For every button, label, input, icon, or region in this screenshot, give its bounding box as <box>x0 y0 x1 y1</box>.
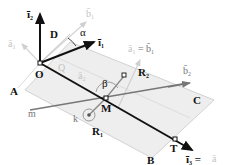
label-m-line: m <box>28 108 36 119</box>
point-m <box>104 96 108 100</box>
label-ghost-b1: b̄1 <box>86 8 94 20</box>
label-r2: R2 <box>138 66 149 79</box>
label-o: O <box>35 68 44 80</box>
label-c: C <box>193 94 201 106</box>
point-o <box>38 61 42 65</box>
label-d: D <box>50 28 58 40</box>
label-i1: ī1 <box>97 36 104 49</box>
plane-abcd <box>25 42 214 158</box>
ghost-a1-vector <box>22 44 40 63</box>
label-i3-ghost: ā <box>212 153 217 164</box>
label-k: k <box>73 113 78 124</box>
label-q: Q <box>58 62 66 73</box>
label-ghost-a1: ā1 <box>8 38 15 50</box>
label-a1-eq-b1: ā1 = b̄1 <box>128 43 154 55</box>
label-beta: β <box>102 77 108 89</box>
label-i3: ī3 = <box>185 153 201 165</box>
point-r1 <box>87 113 91 117</box>
label-alpha: α <box>80 26 86 38</box>
label-b: B <box>147 154 155 165</box>
point-r2 <box>122 73 126 77</box>
label-t: T <box>170 142 178 154</box>
label-m-point: M <box>101 102 112 114</box>
label-i2: ī2 <box>26 8 33 21</box>
point-t <box>173 137 177 141</box>
geometry-diagram: ī2 D α ī1 O Q ā1 b̄1 ā2 ā1 = b̄1 β R2 b̄… <box>0 0 226 165</box>
label-a: A <box>10 85 18 97</box>
label-b2: b̄2 <box>183 65 191 77</box>
